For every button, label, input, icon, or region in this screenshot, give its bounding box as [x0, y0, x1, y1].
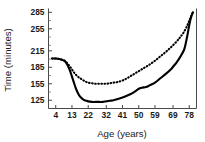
x-tick-label: 22: [84, 110, 94, 120]
y-tick-label: 285: [31, 7, 45, 17]
plot-frame: [49, 9, 197, 109]
data-series-group: [52, 12, 193, 102]
series-line-dotted: [52, 12, 193, 83]
x-axis-tick-labels: 41322324150596978: [53, 110, 194, 120]
y-tick-label: 185: [31, 62, 45, 72]
x-axis-title: Age (years): [97, 128, 147, 139]
y-axis-title: Time (minutes): [2, 28, 13, 92]
x-axis-title-group: Age (years): [97, 128, 147, 139]
x-tick-label: 32: [102, 110, 112, 120]
axis-tickmarks: [49, 12, 190, 108]
series-line-solid: [52, 12, 193, 102]
line-chart-svg: Time (minutes) 125155185215255285 413223…: [0, 0, 205, 142]
x-tick-label: 13: [67, 110, 77, 120]
x-tick-label: 41: [118, 110, 128, 120]
x-tick-label: 50: [134, 110, 144, 120]
chart-figure: Time (minutes) 125155185215255285 413223…: [0, 0, 205, 142]
y-axis-tick-labels: 125155185215255285: [31, 7, 45, 105]
y-axis-title-group: Time (minutes): [2, 28, 13, 92]
y-tick-label: 155: [31, 79, 45, 89]
x-tick-label: 59: [150, 110, 160, 120]
y-tick-label: 125: [31, 95, 45, 105]
y-tick-label: 215: [31, 46, 45, 56]
x-tick-label: 4: [53, 110, 58, 120]
axis-lines: [49, 9, 197, 109]
x-tick-label: 78: [185, 110, 195, 120]
x-tick-label: 69: [168, 110, 178, 120]
y-tick-label: 255: [31, 24, 45, 34]
